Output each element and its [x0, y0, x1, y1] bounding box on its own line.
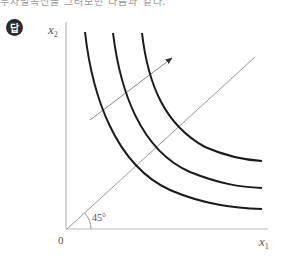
angle-arc: [85, 213, 92, 229]
x-axis-label: x1: [258, 234, 269, 251]
y-axis-label: x2: [47, 22, 58, 39]
angle-label: 45°: [92, 212, 106, 223]
origin-label: 0: [58, 234, 64, 246]
indifference-curve-3: [142, 33, 262, 161]
indifference-chart: x2 x1 0 45°: [0, 0, 284, 260]
